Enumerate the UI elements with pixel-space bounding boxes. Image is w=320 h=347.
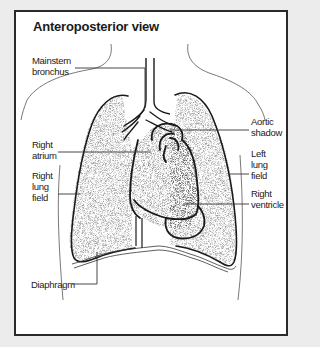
label-aortic-shadow: Aortic shadow bbox=[251, 116, 282, 138]
label-mainstem-bronchus: Mainstem bronchus bbox=[32, 55, 71, 77]
label-right-atrium: Right atrium bbox=[32, 139, 57, 161]
vena-cava bbox=[136, 216, 142, 248]
trachea bbox=[136, 58, 170, 118]
label-right-lung-field: Right lung field bbox=[32, 170, 53, 203]
label-right-ventricle: Right ventricle bbox=[251, 188, 284, 210]
label-left-lung-field: Left lung field bbox=[251, 148, 268, 181]
label-diaphragm: Diaphragm bbox=[31, 279, 75, 290]
